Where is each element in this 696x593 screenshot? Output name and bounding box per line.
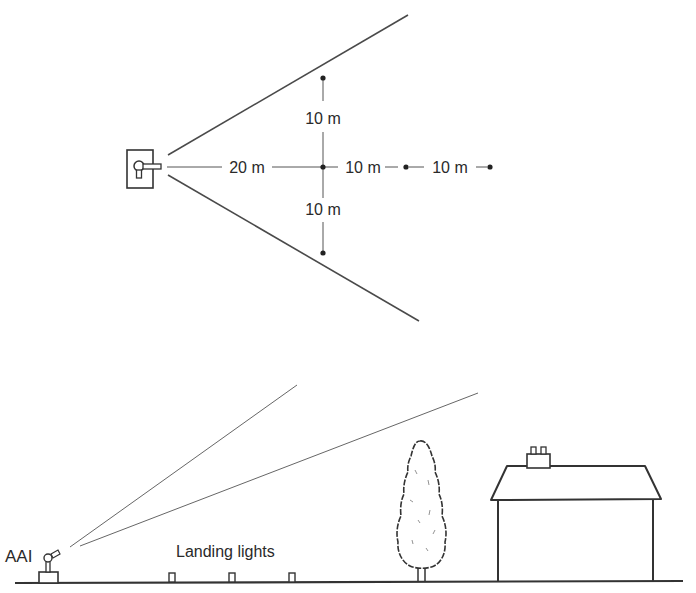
diagram-canvas: 20 m 10 m 10 m 10 m 10 m AAI Landing lig… [0, 0, 696, 593]
cone-upper-edge [168, 15, 408, 155]
label-landing-lights: Landing lights [176, 543, 275, 560]
label-lower-offset: 10 m [305, 201, 341, 218]
point-top [320, 75, 325, 80]
aai-device-side-icon [39, 550, 60, 583]
point-bottom [320, 250, 325, 255]
label-far-step-1: 10 m [345, 159, 381, 176]
chimney-pot [531, 447, 536, 454]
point-far-2 [487, 164, 492, 169]
landing-light [289, 573, 295, 582]
top-view: 20 m 10 m 10 m 10 m 10 m [127, 15, 493, 321]
label-upper-offset: 10 m [305, 110, 341, 127]
chimney [527, 454, 550, 468]
chimney-pot [541, 447, 546, 454]
aai-device-top-icon [127, 150, 161, 188]
label-aai: AAI [5, 547, 32, 566]
side-view: AAI Landing lights [5, 385, 683, 583]
house-icon [491, 447, 661, 582]
landing-light [169, 573, 175, 582]
label-near-distance: 20 m [229, 159, 265, 176]
ground-line [15, 581, 683, 583]
label-far-step-2: 10 m [432, 159, 468, 176]
point-far-1 [403, 164, 408, 169]
cone-lower-edge [168, 175, 419, 321]
landing-light [229, 573, 235, 582]
beam-upper [70, 385, 297, 547]
point-center [320, 164, 325, 169]
tree-icon [397, 441, 446, 581]
